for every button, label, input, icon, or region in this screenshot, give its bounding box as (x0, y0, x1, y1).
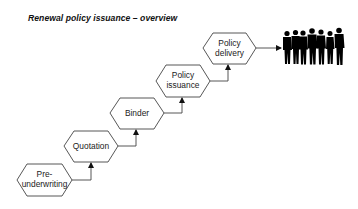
step-label-line-2: issuance (166, 80, 199, 90)
step-pre-underwriting: Pre- underwriting (17, 164, 72, 196)
step-label-line-1: Policy (172, 70, 195, 80)
connector-arrow (164, 98, 182, 113)
step-label: Binder (125, 108, 149, 118)
people-group-icon (283, 28, 345, 65)
connector-arrow (72, 163, 91, 180)
step-binder: Binder (110, 98, 164, 129)
step-policy-issuance: Policy issuance (156, 65, 210, 97)
step-label-line-1: Pre- (37, 169, 53, 179)
step-quotation: Quotation (64, 131, 118, 162)
step-label-line-2: delivery (215, 48, 245, 58)
process-flow-diagram: Pre- underwriting Quotation Binder Polic… (0, 0, 358, 209)
step-label: Quotation (73, 141, 110, 151)
step-label-line-2: underwriting (22, 179, 68, 189)
step-label-line-1: Policy (218, 38, 241, 48)
connector-arrow (210, 65, 228, 81)
connector-arrow (118, 130, 136, 146)
step-policy-delivery: Policy delivery (203, 33, 256, 64)
